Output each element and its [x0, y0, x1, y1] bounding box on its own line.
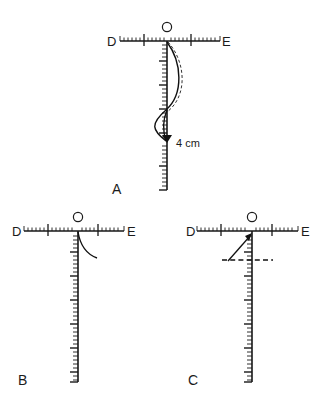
panel-a-label-e: E [222, 34, 231, 49]
panel-b-horizontal-minor-ticks [24, 226, 124, 231]
panel-b-vertical-major-ticks [70, 252, 78, 382]
panel-c-origin-circle-icon [247, 212, 256, 221]
panel-a-horizontal-minor-ticks [120, 36, 220, 41]
panel-c-label-d: D [186, 224, 195, 239]
panel-c-horizontal-ruler [197, 224, 298, 236]
physics-diagram-svg: D E 4 cm A [0, 0, 332, 402]
panel-c-label-e: E [301, 224, 310, 239]
panel-c-vertical-ruler [244, 231, 252, 382]
panel-b: D E B [12, 212, 136, 388]
panel-a-letter: A [112, 181, 122, 197]
panel-b-deflection-curve [78, 232, 97, 258]
panel-c: D E C [186, 212, 310, 388]
panel-b-letter: B [18, 372, 27, 388]
panel-a-upper-deflection-curve-dashed [167, 42, 182, 112]
panel-a-label-d: D [107, 34, 116, 49]
figure-container: D E 4 cm A [0, 0, 332, 402]
panel-a: D E 4 cm A [107, 22, 231, 197]
panel-a-origin-circle-icon [162, 22, 171, 31]
panel-b-origin-circle-icon [73, 212, 82, 221]
panel-c-vertical-major-ticks [244, 252, 252, 382]
panel-a-upper-deflection-curve [166, 42, 179, 110]
panel-c-letter: C [188, 372, 198, 388]
panel-b-horizontal-ruler [24, 224, 124, 236]
panel-c-horizontal-minor-ticks [197, 226, 298, 231]
panel-b-vertical-ruler [70, 231, 78, 382]
panel-b-label-e: E [127, 224, 136, 239]
panel-c-angle-arrow [228, 233, 252, 261]
panel-b-horizontal-major-ticks [48, 224, 98, 236]
panel-b-label-d: D [12, 224, 21, 239]
panel-a-dimension-label: 4 cm [176, 137, 200, 149]
